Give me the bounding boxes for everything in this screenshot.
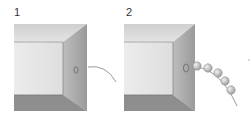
box-2-back-wall: [124, 42, 173, 95]
stray-dot: [248, 59, 249, 60]
bead-3: [214, 69, 222, 77]
box-1: [14, 24, 116, 111]
box-1-thread: [88, 67, 116, 82]
bead-1: [193, 62, 201, 70]
box-2-hole-icon: [183, 64, 188, 72]
bead-2: [204, 64, 212, 72]
box-1-back-wall: [14, 42, 63, 95]
bead-4: [221, 77, 229, 85]
diagram-canvas: [0, 0, 251, 123]
box-2: [124, 24, 250, 111]
bead-5: [227, 86, 235, 94]
